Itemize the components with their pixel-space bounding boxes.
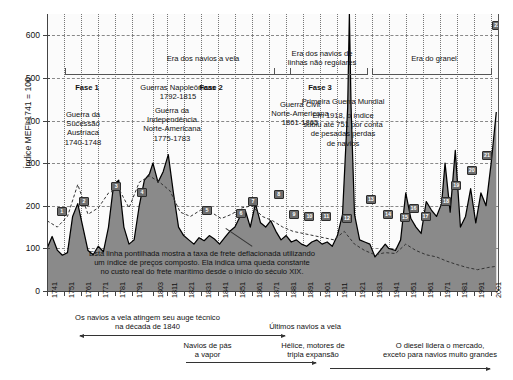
x-tick-mark [372,291,373,296]
x-tick-label: 1871 [272,282,281,298]
x-tick-mark [132,291,133,296]
y-axis-label: Índice MEFI 1741 = 100 [23,48,33,198]
x-tick-mark [303,291,304,296]
y-tick-mark [43,35,50,36]
event-marker[interactable]: 6 [236,209,246,218]
x-tick-label: 1971 [443,282,452,298]
x-tick-mark [252,291,253,296]
event-marker[interactable]: 7 [248,197,258,206]
x-tick-mark [474,291,475,296]
caption-arrow-sail [80,335,285,336]
era-bracket-bulk [372,68,492,75]
era-label-tramp-ships: Era dos navios de linhas não regulares [268,49,376,67]
x-tick-label: 1851 [238,282,247,298]
x-tick-mark [269,291,270,296]
era-label-bulk: Era do granel [385,54,483,63]
y-tick-mark [43,206,50,207]
x-tick-mark [115,291,116,296]
y-axis-line [47,14,48,291]
x-tick-label: 1911 [340,283,349,298]
event-marker[interactable]: 17 [421,212,431,221]
x-tick-label: 1951 [409,282,418,298]
x-tick-label: 1803 [156,282,165,298]
y-tick-mark [43,248,50,249]
event-marker[interactable]: 10 [304,212,314,221]
x-tick-label: 2001 [494,282,503,298]
caption-propeller-triple-expansion: Hélice, motores de tripla expansão [258,341,368,360]
event-marker[interactable]: 11 [321,212,331,221]
x-tick-mark [201,291,202,296]
event-marker[interactable]: 9 [289,210,299,219]
caption-diesel-market: O diesel lidera o mercado, exceto para n… [370,341,510,360]
y-tick-mark [43,121,50,122]
era-bracket-sailing-ships [65,68,291,75]
event-marker[interactable]: 5 [202,206,212,215]
event-american-independence-war: Guerra da Independência Norte-Americana … [124,106,220,143]
event-marker[interactable]: 4 [137,188,147,197]
event-marker[interactable]: 3 [111,182,121,191]
x-tick-label: 1881 [289,282,298,298]
event-marker[interactable]: 19 [451,181,461,190]
x-tick-label: 1831 [204,282,213,298]
x-tick-label: 1891 [306,282,315,298]
y-tick-label: 200 [10,201,40,211]
event-war-austrian-succession: Guerra da Sucessão Austríaca 1740-1748 [53,110,113,147]
x-tick-mark [406,291,407,296]
caption-arrow-diesel [330,368,490,369]
event-marker[interactable]: 18 [441,197,451,206]
x-tick-label: 1921 [358,282,367,298]
event-marker[interactable]: 20 [467,166,477,175]
x-tick-label: 1961 [426,282,435,298]
x-tick-mark [286,291,287,296]
x-tick-mark [423,291,424,296]
x-tick-mark [184,291,185,296]
y-tick-mark [43,163,50,164]
x-tick-mark [47,291,48,296]
phase-label-3: Fase 3 [293,83,347,92]
x-tick-label: 1841 [221,282,230,298]
event-napoleonic-wars: Guerras Napoleônicas 1792-1815 [118,83,238,101]
event-marker[interactable]: 14 [383,210,393,219]
event-marker[interactable]: 1 [57,207,67,216]
x-tick-label: 1761 [84,282,93,298]
x-tick-label: 1741 [50,282,59,298]
x-tick-label: 1781 [118,282,127,298]
event-marker[interactable]: 8 [274,190,284,199]
x-tick-mark [235,291,236,296]
x-tick-label: 1861 [255,282,264,298]
caption-sail-peak: Os navios a vela atingem seu auge técnic… [55,313,240,332]
event-marker[interactable]: 21 [482,151,492,160]
x-tick-mark [491,291,492,296]
caption-arrow-paddle [186,362,316,363]
event-marker[interactable]: 22 [492,21,498,30]
x-tick-label: 1771 [101,282,110,298]
event-marker[interactable]: 2 [79,197,89,206]
x-tick-mark [81,291,82,296]
x-tick-label: 1991 [477,282,486,298]
event-marker[interactable]: 12 [342,214,352,223]
x-tick-mark [98,291,99,296]
caption-paddle-steamers: Navios de pás a vapor [160,341,255,360]
y-tick-label: 0 [10,286,40,296]
x-tick-label: 1821 [187,282,196,298]
y-tick-label: 600 [10,30,40,40]
x-tick-label: 1931 [375,282,384,298]
x-tick-mark [167,291,168,296]
era-bracket-tramp-ships [274,68,368,75]
event-marker[interactable]: 16 [409,204,419,213]
caption-last-sailing-ships: Últimos navios a vela [250,322,360,331]
x-tick-label: 1811 [170,283,179,298]
x-tick-mark [320,291,321,296]
x-tick-mark [337,291,338,296]
dashed-line-explanation: Esta linha pontilhada mostra a taxa de f… [62,249,342,277]
y-tick-label: 100 [10,243,40,253]
event-1918-index-note: Em 1918, o índice subiu até 751 por cont… [291,111,395,148]
event-marker[interactable]: 15 [400,213,410,222]
event-marker[interactable]: 13 [366,195,376,204]
x-tick-label: 1981 [460,282,469,298]
x-tick-mark [355,291,356,296]
x-tick-label: 1941 [392,282,401,298]
x-tick-mark [457,291,458,296]
y-tick-mark [43,78,50,79]
event-world-war-one: Primeira Guerra Mundial [288,97,398,106]
